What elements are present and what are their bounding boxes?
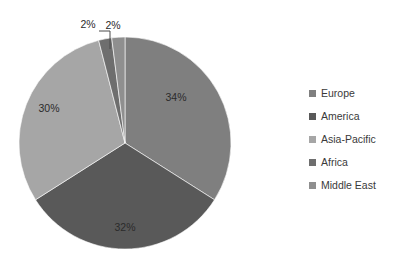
legend-swatch-icon: [309, 113, 316, 120]
legend-item-label: Europe: [321, 88, 355, 99]
legend-swatch-icon: [309, 136, 316, 143]
legend-item-label: Asia-Pacific: [321, 134, 376, 145]
legend-item[interactable]: Middle East: [309, 174, 401, 197]
pie-data-label: 2%: [105, 19, 120, 31]
pie-data-label: 2%: [80, 18, 95, 30]
pie-slice-group: [19, 37, 231, 249]
chart-legend: EuropeAmericaAsia-PacificAfricaMiddle Ea…: [309, 82, 401, 197]
legend-swatch-icon: [309, 182, 316, 189]
pie-data-label: 30%: [38, 102, 59, 114]
legend-item[interactable]: Africa: [309, 151, 401, 174]
legend-item[interactable]: Europe: [309, 82, 401, 105]
pie-data-label: 34%: [165, 91, 186, 103]
legend-swatch-icon: [309, 159, 316, 166]
chart-container: 34%32%30%2%2% EuropeAmericaAsia-PacificA…: [0, 0, 404, 253]
legend-item[interactable]: America: [309, 105, 401, 128]
legend-item-label: Middle East: [321, 180, 376, 191]
pie-data-label: 32%: [114, 221, 135, 233]
legend-item-label: Africa: [321, 157, 348, 168]
legend-swatch-icon: [309, 90, 316, 97]
legend-item[interactable]: Asia-Pacific: [309, 128, 401, 151]
legend-item-label: America: [321, 111, 360, 122]
